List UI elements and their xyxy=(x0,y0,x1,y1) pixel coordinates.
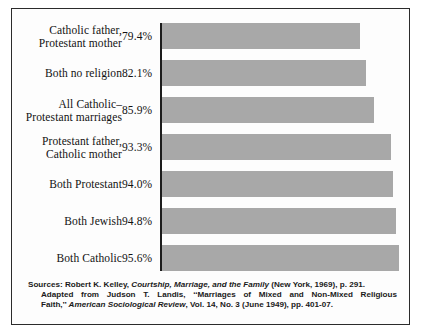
bar-rows: Catholic father, Protestant mother 79.4%… xyxy=(12,23,411,282)
table-row: Both no religion 82.1% xyxy=(12,60,411,86)
bar-value-label: 94.8% xyxy=(122,215,152,228)
table-row: Both Jewish 94.8% xyxy=(12,208,411,234)
bar-segment xyxy=(162,171,393,197)
bar-value-label: 95.6% xyxy=(122,252,152,265)
citation-pub-1: (New York, 1969), p. 291. xyxy=(269,280,365,289)
table-row: Catholic father, Protestant mother 79.4% xyxy=(12,23,411,49)
citation-line-1: Sources: Robert K. Kelley, Courtship, Ma… xyxy=(28,280,397,290)
bar-segment xyxy=(162,208,396,234)
citation-lead: Sources: Robert K. Kelley, xyxy=(28,280,131,289)
bar-value-label: 82.1% xyxy=(122,67,152,80)
bar-segment xyxy=(162,23,360,49)
bar-value-label: 93.3% xyxy=(122,141,152,154)
bar-value-label: 94.0% xyxy=(122,178,152,191)
citation-line-3: Faith,’’ American Sociological Review, V… xyxy=(28,300,397,310)
table-row: All Catholic– Protestant marriages 85.9% xyxy=(12,97,411,123)
bar-segment xyxy=(162,97,374,123)
table-row: Both Catholic 95.6% xyxy=(12,245,411,271)
bar-value-label: 79.4% xyxy=(122,30,152,43)
bar-category-label: Both Jewish xyxy=(64,215,122,228)
table-row: Both Protestant 94.0% xyxy=(12,171,411,197)
citation-pub-2: , Vol. 14, No. 3 (June 1949), pp. 401-07… xyxy=(186,300,333,309)
bar-category-label: Catholic father, Protestant mother xyxy=(39,24,122,49)
bar-category-label: Both no religion xyxy=(45,67,122,80)
citation-title-1: Courtship, Marriage, and the Family xyxy=(131,280,269,289)
citation-title-2: American Sociological Review xyxy=(69,300,186,309)
citation-line-2: Adapted from Judson T. Landis, ‘‘Marriag… xyxy=(28,290,397,300)
figure-frame: Catholic father, Protestant mother 79.4%… xyxy=(11,8,410,325)
bar-value-label: 85.9% xyxy=(122,104,152,117)
bar-category-label: All Catholic– Protestant marriages xyxy=(26,98,122,123)
source-citation: Sources: Robert K. Kelley, Courtship, Ma… xyxy=(28,280,397,311)
bar-category-label: Both Catholic xyxy=(56,252,122,265)
citation-faith: Faith,’’ xyxy=(41,300,69,309)
bar-segment xyxy=(162,134,391,160)
bar-category-label: Both Protestant xyxy=(49,178,122,191)
bar-segment xyxy=(162,60,366,86)
table-row: Protestant father, Catholic mother 93.3% xyxy=(12,134,411,160)
bar-segment xyxy=(162,245,399,271)
bar-category-label: Protestant father, Catholic mother xyxy=(42,135,122,160)
bar-chart: Catholic father, Protestant mother 79.4%… xyxy=(12,15,411,277)
